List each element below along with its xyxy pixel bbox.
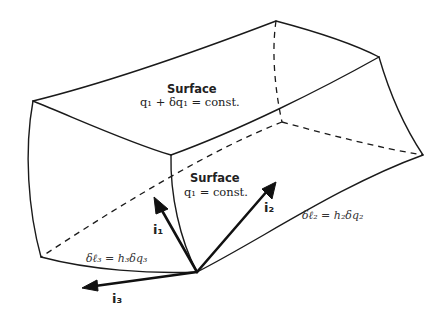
top-surface-equation: q₁ + δq₁ = const. bbox=[140, 95, 240, 109]
delta-l2-label: δℓ₂ = h₂δq₂ bbox=[302, 209, 363, 222]
i2-label: i₂ bbox=[264, 200, 274, 215]
front-surface-equation: q₁ = const. bbox=[184, 185, 248, 199]
hidden-vertical-edge bbox=[274, 21, 282, 122]
front-surface-title: Surface bbox=[190, 171, 240, 185]
i1-label: i₁ bbox=[153, 222, 163, 237]
volume-element-diagram: Surface q₁ + δq₁ = const. Surface q₁ = c… bbox=[0, 0, 446, 318]
top-surface-back-left-edge bbox=[33, 21, 276, 101]
left-vertical-edge bbox=[28, 101, 41, 257]
hidden-right-edge bbox=[282, 122, 423, 155]
i3-vector bbox=[95, 272, 197, 286]
i1-arrowhead-icon bbox=[154, 197, 168, 214]
i2-vector bbox=[197, 190, 268, 272]
i1-vector bbox=[160, 207, 197, 272]
i3-arrowhead-icon bbox=[82, 280, 98, 291]
i3-label: i₃ bbox=[112, 291, 122, 306]
right-vertical-edge bbox=[379, 57, 423, 155]
top-surface-title: Surface bbox=[167, 82, 217, 96]
top-surface-back-right-edge bbox=[276, 21, 379, 57]
top-surface-front-left-edge bbox=[33, 101, 171, 155]
delta-l3-label: δℓ₃ = h₃δq₃ bbox=[86, 252, 147, 265]
